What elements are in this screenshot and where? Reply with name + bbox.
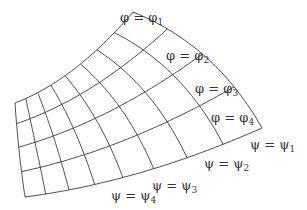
psi-curve-1 bbox=[26, 99, 46, 195]
psi-label-4: ψ = ψ4 bbox=[111, 188, 157, 205]
phi-curve-3 bbox=[22, 87, 235, 172]
psi-curve-5 bbox=[80, 64, 153, 169]
phi-label-4: φ = φ4 bbox=[211, 110, 254, 127]
psi-label-1: ψ = ψ1 bbox=[250, 137, 295, 154]
psi-curve-2 bbox=[38, 93, 69, 190]
psi-label-2: ψ = ψ2 bbox=[204, 156, 249, 173]
psi-curve-4 bbox=[65, 76, 123, 178]
phi-curve-1 bbox=[17, 29, 168, 124]
curvilinear-grid-diagram: φ = φ1φ = φ2φ = φ3φ = φ4ψ = ψ1ψ = ψ2ψ = … bbox=[0, 0, 307, 210]
phi-label-2: φ = φ2 bbox=[166, 48, 209, 65]
psi-curve-0 bbox=[15, 103, 25, 197]
psi-curve-6 bbox=[97, 50, 187, 158]
psi-label-3: ψ = ψ3 bbox=[152, 178, 198, 195]
curve-labels: φ = φ1φ = φ2φ = φ3φ = φ4ψ = ψ1ψ = ψ2ψ = … bbox=[111, 10, 295, 205]
phi-curve-0 bbox=[15, 12, 133, 103]
phi-label-3: φ = φ3 bbox=[195, 81, 238, 98]
phi-curve-2 bbox=[19, 54, 203, 147]
phi-label-1: φ = φ1 bbox=[120, 10, 163, 27]
